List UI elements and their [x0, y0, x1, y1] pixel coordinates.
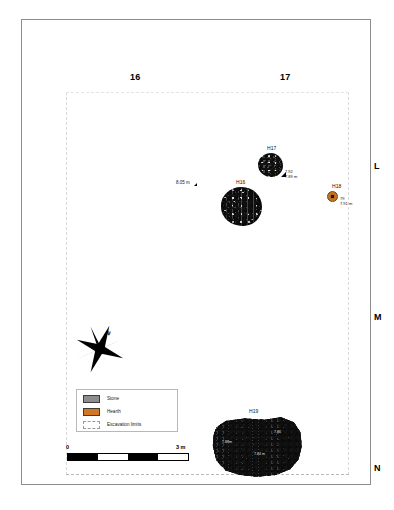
- legend-box: Stone Hearth Excavation limits: [76, 389, 178, 432]
- north-arrow-icon: [74, 323, 126, 375]
- hearth-feature-h18[interactable]: [327, 191, 338, 202]
- scale-bar-segment: [68, 454, 98, 460]
- elevation-label-h18: 797.91 m: [340, 196, 352, 206]
- stone-feature-h16[interactable]: [221, 187, 262, 226]
- grid-row-label-m: M: [374, 312, 382, 322]
- elevation-label-h19-center: 7.84 m: [254, 452, 265, 456]
- feature-label-h16: H16: [236, 179, 245, 185]
- scale-bar-min-label: 0: [66, 444, 69, 450]
- legend-label-excavation-limits: Excavation limits: [107, 422, 141, 427]
- grid-column-label-17: 17: [280, 72, 291, 82]
- scale-bar-segment: [128, 454, 158, 460]
- feature-label-h18: H18: [332, 183, 341, 189]
- grid-column-label-16: 16: [130, 72, 141, 82]
- legend-swatch-excavation-limits: [83, 421, 100, 429]
- feature-label-h17: H17: [267, 145, 276, 151]
- scale-bar-max-label: 3 m: [176, 444, 185, 450]
- plate-frame: 16 17 L M N 8.05 m H17 7.927.89 m H16 H1…: [21, 19, 371, 485]
- legend-item-stone: Stone: [83, 394, 119, 403]
- feature-label-h19: H19: [249, 408, 258, 414]
- legend-label-hearth: Hearth: [107, 409, 121, 414]
- elevation-label-h17: 7.927.89 m: [285, 169, 297, 179]
- scale-bar: [67, 453, 189, 461]
- legend-swatch-hearth: [83, 408, 100, 416]
- grid-row-label-n: N: [374, 463, 381, 473]
- excavation-limits-bottom-edge: [66, 474, 349, 475]
- legend-item-hearth: Hearth: [83, 407, 121, 416]
- site-plan-page: 16 17 L M N 8.05 m H17 7.927.89 m H16 H1…: [0, 0, 394, 510]
- spot-height-label: 8.05 m: [176, 180, 190, 185]
- elevation-label-h19-west: 7.88m: [222, 440, 232, 444]
- legend-label-stone: Stone: [107, 396, 119, 401]
- legend-swatch-stone: [83, 395, 100, 403]
- scale-bar-segment: [158, 454, 188, 460]
- legend-item-excavation-limits: Excavation limits: [83, 420, 141, 429]
- grid-row-label-l: L: [374, 161, 380, 171]
- stone-feature-h17[interactable]: [258, 153, 283, 177]
- elevation-label-h19-east: 7.86: [274, 430, 281, 434]
- scale-bar-segment: [98, 454, 128, 460]
- stone-feature-h19[interactable]: [211, 416, 303, 478]
